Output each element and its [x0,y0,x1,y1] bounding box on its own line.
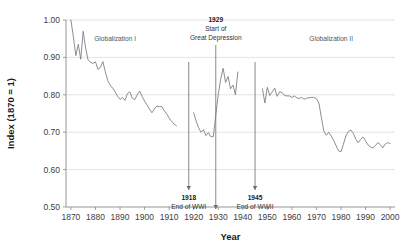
x-tick-label: 1890 [111,212,130,222]
x-tick-label: 1960 [282,212,301,222]
x-tick-label: 1990 [356,212,375,222]
x-tick-label: 1910 [160,212,179,222]
annotation-year: 1918 [181,194,196,201]
annotation-description: End of WWI [171,203,206,210]
era-label: Globalization II [309,35,353,42]
annotation-description: Great Depression [190,34,242,42]
y-axis-tick-labels: 0.500.600.700.800.901.00 [43,15,66,212]
annotation-year: 1945 [248,194,263,201]
x-tick-label: 1880 [86,212,105,222]
x-tick-label: 2000 [381,212,400,222]
annotation-year: 1929 [208,16,223,23]
x-axis-title: Year [220,231,240,242]
y-axis-title: Index (1870 = 1) [5,78,16,149]
x-tick-label: 1920 [184,212,203,222]
x-tick-label: 1900 [135,212,154,222]
y-tick-label: 0.70 [43,127,60,137]
y-tick-label: 0.50 [43,202,60,212]
x-tick-label: 1940 [233,212,252,222]
x-tick-label: 1870 [61,212,80,222]
y-tick-label: 0.60 [43,165,60,175]
x-tick-label: 1950 [258,212,277,222]
y-tick-label: 1.00 [43,15,60,25]
y-tick-label: 0.90 [43,52,60,62]
x-axis-tick-labels: 1870188018901900191019201930194019501960… [61,212,399,222]
chart-container: 0.500.600.700.800.901.00 187018801890190… [0,0,416,252]
x-tick-label: 1970 [307,212,326,222]
annotation-description: End of WWII [237,203,274,210]
y-tick-label: 0.80 [43,90,60,100]
x-tick-label: 1930 [209,212,228,222]
era-label: Globalization I [94,35,136,42]
plot-background [66,20,395,207]
x-tick-label: 1980 [332,212,351,222]
annotation-description: Start of [205,25,226,32]
line-chart: 0.500.600.700.800.901.00 187018801890190… [0,0,416,252]
